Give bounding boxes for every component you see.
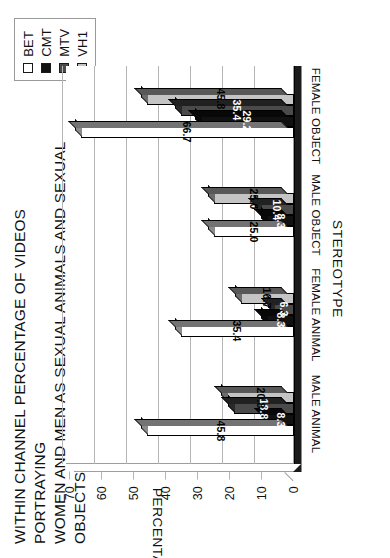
- bar-side-face: [168, 99, 288, 106]
- value-axis-tick-label: 10: [255, 486, 269, 500]
- legend-item-cmt: CMT: [39, 28, 53, 73]
- legend-swatch-icon: [23, 63, 33, 73]
- bar-side-face: [214, 386, 288, 393]
- value-axis-title: PERCENTAGE: [150, 488, 165, 548]
- value-axis-tick-label: 0: [287, 486, 301, 493]
- chart-page: WITHIN CHANNEL PERCENTAGE OF VIDEOS PORT…: [0, 0, 390, 558]
- rotated-figure: WITHIN CHANNEL PERCENTAGE OF VIDEOS PORT…: [0, 0, 390, 558]
- bar-side-face: [134, 419, 288, 426]
- gridline: [62, 66, 63, 464]
- bar-value-label: 8.3: [275, 412, 286, 427]
- bar-side-face: [134, 88, 288, 95]
- bar-value-label: 66.7: [182, 122, 193, 143]
- legend-item-bet: BET: [21, 28, 35, 73]
- legend-label: MTV: [58, 29, 71, 57]
- category-axis-tick-label: FEMALE OBJECT: [310, 67, 322, 164]
- legend-swatch-icon: [41, 63, 51, 73]
- value-axis-tick-label: 70: [63, 486, 77, 500]
- plot-depth-edge: [74, 464, 302, 472]
- value-axis-tick-label: 20: [223, 486, 237, 500]
- bar-value-label: 20.8: [255, 387, 266, 408]
- bar-value-label: 25.0: [249, 188, 260, 209]
- bar-side-face: [228, 287, 288, 294]
- legend-label: BET: [22, 31, 35, 57]
- value-axis-tick-label: 50: [127, 486, 141, 500]
- bar-side-face: [168, 320, 288, 327]
- bar-value-label: 10.4: [272, 199, 283, 220]
- value-axis-tick-label: 30: [191, 486, 205, 500]
- bar-value-label: 16.7: [262, 288, 273, 309]
- bar-value-label: 25.0: [249, 221, 260, 242]
- bar-value-label: 29.2: [242, 111, 253, 132]
- category-axis-title: STEREOTYPE: [330, 66, 345, 472]
- value-axis-line: [301, 66, 302, 472]
- bar-value-label: 45.8: [215, 89, 226, 110]
- category-axis-tick-label: MALE ANIMAL: [310, 375, 322, 453]
- bar-side-face: [68, 121, 288, 128]
- legend-label: VH1: [76, 31, 89, 57]
- category-axis-tick-label: FEMALE ANIMAL: [310, 268, 322, 361]
- value-axis-tick-label: 60: [95, 486, 109, 500]
- legend-label: CMT: [40, 28, 53, 57]
- category-axis-tick-label: MALE OBJECT: [310, 174, 322, 256]
- plot-area: 45.88.318.820.835.48.36.316.725.08.310.4…: [66, 66, 302, 472]
- bar-value-label: 35.4: [232, 321, 243, 342]
- bar-value-label: 45.8: [215, 420, 226, 441]
- bar-value-label: 6.3: [279, 302, 290, 317]
- bar-value-label: 35.4: [232, 100, 243, 121]
- bar-side-face: [201, 187, 288, 194]
